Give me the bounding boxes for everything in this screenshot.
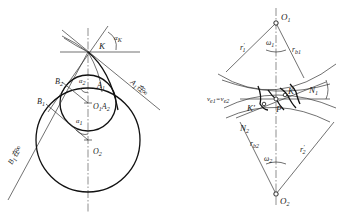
pitch-circle-1 [218, 64, 336, 90]
label-b2: B2 [55, 77, 63, 87]
label-k: K [287, 86, 295, 96]
label-r1-prime: r′1 [240, 42, 245, 53]
right-figure: O1 r′1 ω1 rb1 N1 K K′ P ve1=ve2 N2 rb2 ω… [207, 8, 336, 207]
contact-point-k [283, 93, 287, 97]
label-omega2: ω2 [264, 154, 272, 164]
label-rb2: rb2 [250, 139, 259, 149]
label-o2: O2 [93, 147, 102, 157]
label-k-prime: K′ [246, 103, 256, 113]
label-k: K [98, 41, 106, 51]
normal-line-k [48, 26, 108, 112]
label-r2-prime: r′2 [300, 144, 305, 155]
n1-angle-arc [326, 80, 328, 99]
tangent-line-a1-infinity [62, 30, 160, 110]
tangent-line-b1-infinity [8, 52, 88, 200]
label-o1: O1 [281, 12, 291, 23]
label-b1-at-infinity: B1在∞ [6, 144, 24, 167]
label-o2: O2 [280, 196, 290, 207]
label-a1: A1 [96, 81, 105, 91]
label-alpha-2: α2 [79, 77, 85, 86]
curve-upper-2 [64, 38, 88, 52]
label-rb1: rb1 [292, 45, 301, 55]
label-o1-a2: O1A2 [93, 102, 110, 112]
contact-point-k-prime [262, 102, 266, 106]
label-b1: B1 [37, 97, 45, 107]
label-omega1: ω1 [266, 38, 274, 48]
label-alpha-1: α1 [76, 117, 82, 126]
radius-r2-prime [276, 122, 334, 194]
label-n2: N2 [239, 123, 249, 134]
center-o1-pivot [274, 21, 278, 25]
gear-diagram-canvas: K αK B2 B1 A1 α2 α1 O1A2 O2 A1在∞ B1在∞ [0, 0, 340, 214]
radius-r1-prime [226, 23, 276, 72]
label-velocity: ve1=ve2 [207, 95, 229, 104]
label-alpha-k: αK [114, 34, 123, 43]
label-n1: N1 [308, 85, 318, 96]
label-p: P [275, 104, 282, 114]
pitch-point-p [274, 97, 278, 101]
left-figure: K αK B2 B1 A1 α2 α1 O1A2 O2 A1在∞ B1在∞ [6, 26, 160, 212]
curve-upper-1 [62, 36, 88, 52]
label-a1-at-infinity: A1在∞ [127, 77, 150, 98]
center-o2-pivot [274, 192, 278, 196]
